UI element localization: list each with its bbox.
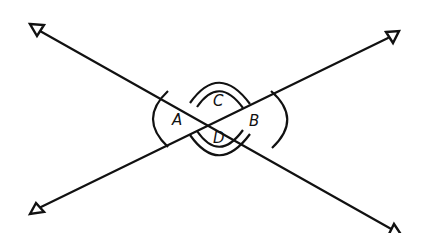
arrowhead-upper-right-icon — [386, 31, 399, 43]
angle-a-arc — [153, 91, 168, 147]
arrowhead-upper-left-icon — [30, 24, 44, 36]
angle-b-arc — [271, 91, 287, 148]
angle-a-label: A — [171, 111, 182, 129]
vertical-angles-diagram: A B C D — [0, 0, 422, 233]
angle-b-label: B — [249, 112, 259, 130]
arrowhead-lower-left-icon — [30, 203, 44, 214]
line-2 — [41, 38, 388, 207]
angle-d-label: D — [213, 129, 225, 147]
angle-c-label: C — [213, 92, 224, 110]
